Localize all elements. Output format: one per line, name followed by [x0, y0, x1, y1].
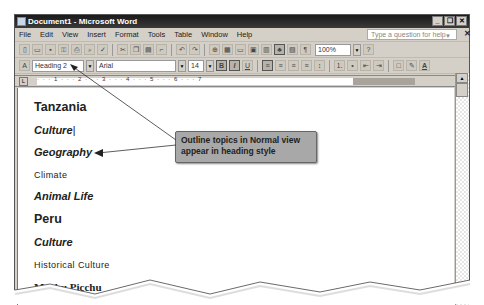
scroll-up-icon[interactable]: ▲ [456, 73, 468, 83]
help-placeholder: Type a question for help [371, 31, 446, 38]
word-app-icon [17, 17, 26, 26]
restore-button[interactable]: ❐ [444, 16, 455, 26]
menu-format[interactable]: Format [115, 30, 139, 39]
align-right-icon[interactable]: ≡ [288, 60, 299, 71]
bullets-icon[interactable]: • [347, 60, 358, 71]
new-icon[interactable]: ▯ [19, 44, 30, 55]
title-bar: Document1 - Microsoft Word _ ❐ ✕ [15, 15, 469, 28]
increase-indent-icon[interactable]: ⇥ [373, 60, 384, 71]
insert-table-icon[interactable]: ▭ [235, 44, 246, 55]
scroll-thumb[interactable] [456, 83, 468, 97]
copy-icon[interactable]: ❐ [130, 44, 141, 55]
menu-help[interactable]: Help [237, 30, 252, 39]
format-painter-icon[interactable]: ⌐ [156, 44, 167, 55]
show-hide-icon[interactable]: ¶ [300, 44, 311, 55]
permission-icon[interactable]: ⚿ [58, 44, 69, 55]
justify-icon[interactable]: ≡ [301, 60, 312, 71]
print-preview-icon[interactable]: ⌕ [84, 44, 95, 55]
minimize-button[interactable]: _ [432, 16, 443, 26]
bold-button[interactable]: B [216, 60, 227, 71]
vertical-scrollbar[interactable]: ▲ [455, 73, 469, 305]
borders-icon[interactable]: □ [393, 60, 404, 71]
chevron-down-icon[interactable]: ▼ [445, 32, 451, 41]
close-document-button[interactable]: ✕ [464, 29, 471, 38]
ruler-numbers: · · · 1 · · · 2 · · · 3 · · · 4 · · · 5 … [37, 76, 417, 82]
styles-formatting-icon[interactable]: A [19, 60, 30, 71]
redo-icon[interactable]: ↷ [189, 44, 200, 55]
decrease-indent-icon[interactable]: ⇤ [360, 60, 371, 71]
font-size-dropdown-arrow[interactable]: ▼ [206, 60, 214, 72]
doc-line: Animal Life [34, 190, 93, 202]
separator [388, 60, 389, 72]
print-icon[interactable]: ⎙ [71, 44, 82, 55]
text-cursor: | [73, 124, 76, 136]
window-title: Document1 - Microsoft Word [28, 17, 137, 26]
menu-tools[interactable]: Tools [148, 30, 166, 39]
doc-line: Tanzania [34, 100, 87, 114]
insert-excel-icon[interactable]: ▣ [248, 44, 259, 55]
menu-table[interactable]: Table [174, 30, 192, 39]
standard-toolbar: ▯ ▭ ▪ ⚿ ⎙ ⌕ ✓ ✂ ❐ ▤ ⌐ ↶ ↷ ⊕ ▦ ▭ ▣ ▥ ♣ ▧ … [15, 42, 469, 58]
font-field[interactable]: Arial [96, 60, 176, 72]
menu-bar: File Edit View Insert Format Tools Table… [15, 28, 469, 42]
save-icon[interactable]: ▪ [45, 44, 56, 55]
paste-icon[interactable]: ▤ [143, 44, 154, 55]
doc-line: Historical Culture [34, 260, 110, 270]
menu-edit[interactable]: Edit [40, 30, 53, 39]
columns-icon[interactable]: ▥ [261, 44, 272, 55]
align-left-icon[interactable]: ≡ [262, 60, 273, 71]
separator [171, 44, 172, 56]
zoom-dropdown-arrow[interactable]: ▼ [353, 44, 361, 56]
undo-icon[interactable]: ↶ [176, 44, 187, 55]
menu-insert[interactable]: Insert [87, 30, 106, 39]
align-center-icon[interactable]: ≡ [275, 60, 286, 71]
doc-line: Culture| [34, 124, 75, 136]
numbering-icon[interactable]: ⒈ [334, 60, 345, 71]
close-button[interactable]: ✕ [456, 16, 467, 26]
separator [329, 60, 330, 72]
italic-button[interactable]: I [229, 60, 240, 71]
drawing-icon[interactable]: ♣ [274, 44, 285, 55]
separator [204, 44, 205, 56]
doc-line: Geography [34, 146, 92, 158]
formatting-toolbar: A Heading 2 ▼ Arial ▼ 14 ▼ B I U ≡ ≡ ≡ ≡… [15, 58, 469, 74]
hyperlink-icon[interactable]: ⊕ [209, 44, 220, 55]
style-dropdown-arrow[interactable]: ▼ [86, 60, 94, 72]
help-search-input[interactable]: Type a question for help ▼ [367, 29, 457, 40]
font-color-icon[interactable]: A [419, 60, 430, 71]
horizontal-ruler[interactable]: L · · · 1 · · · 2 · · · 3 · · · 4 · · · … [15, 75, 469, 87]
document-map-icon[interactable]: ▧ [287, 44, 298, 55]
underline-button[interactable]: U [242, 60, 253, 71]
style-field[interactable]: Heading 2 [32, 60, 84, 72]
tab-selector-icon[interactable]: L [19, 77, 28, 86]
callout-annotation: Outline topics in Normal view appear in … [175, 131, 317, 163]
separator [112, 44, 113, 56]
torn-edge [0, 272, 484, 304]
menu-file[interactable]: File [19, 30, 31, 39]
spelling-icon[interactable]: ✓ [97, 44, 108, 55]
cut-icon[interactable]: ✂ [117, 44, 128, 55]
menu-window[interactable]: Window [201, 30, 228, 39]
read-icon[interactable]: ? [363, 44, 374, 55]
menu-view[interactable]: View [62, 30, 78, 39]
line-spacing-icon[interactable]: ↕ [314, 60, 325, 71]
doc-line: Peru [34, 212, 62, 226]
open-icon[interactable]: ▭ [32, 44, 43, 55]
zoom-field[interactable]: 100% [315, 44, 351, 56]
tables-borders-icon[interactable]: ▦ [222, 44, 233, 55]
doc-line: Climate [34, 170, 67, 180]
doc-line: Culture [34, 236, 73, 248]
separator [257, 60, 258, 72]
highlight-icon[interactable]: ✎ [406, 60, 417, 71]
font-dropdown-arrow[interactable]: ▼ [178, 60, 186, 72]
font-size-field[interactable]: 14 [188, 60, 204, 72]
